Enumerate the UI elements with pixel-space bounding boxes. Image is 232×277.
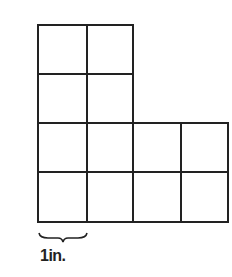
unit-label: 1in. [40,247,66,265]
unit-square [181,123,228,172]
unit-square [38,25,87,74]
unit-square [133,123,181,172]
unit-square [38,172,87,222]
unit-square [181,172,228,222]
unit-square [87,172,133,222]
unit-square [87,74,133,123]
unit-square [87,123,133,172]
unit-square [87,25,133,74]
l-shaped-unit-square-figure [0,0,232,277]
brace-icon [39,233,87,242]
unit-square [133,172,181,222]
unit-square [38,123,87,172]
grid-lines [38,25,228,222]
unit-square [38,74,87,123]
